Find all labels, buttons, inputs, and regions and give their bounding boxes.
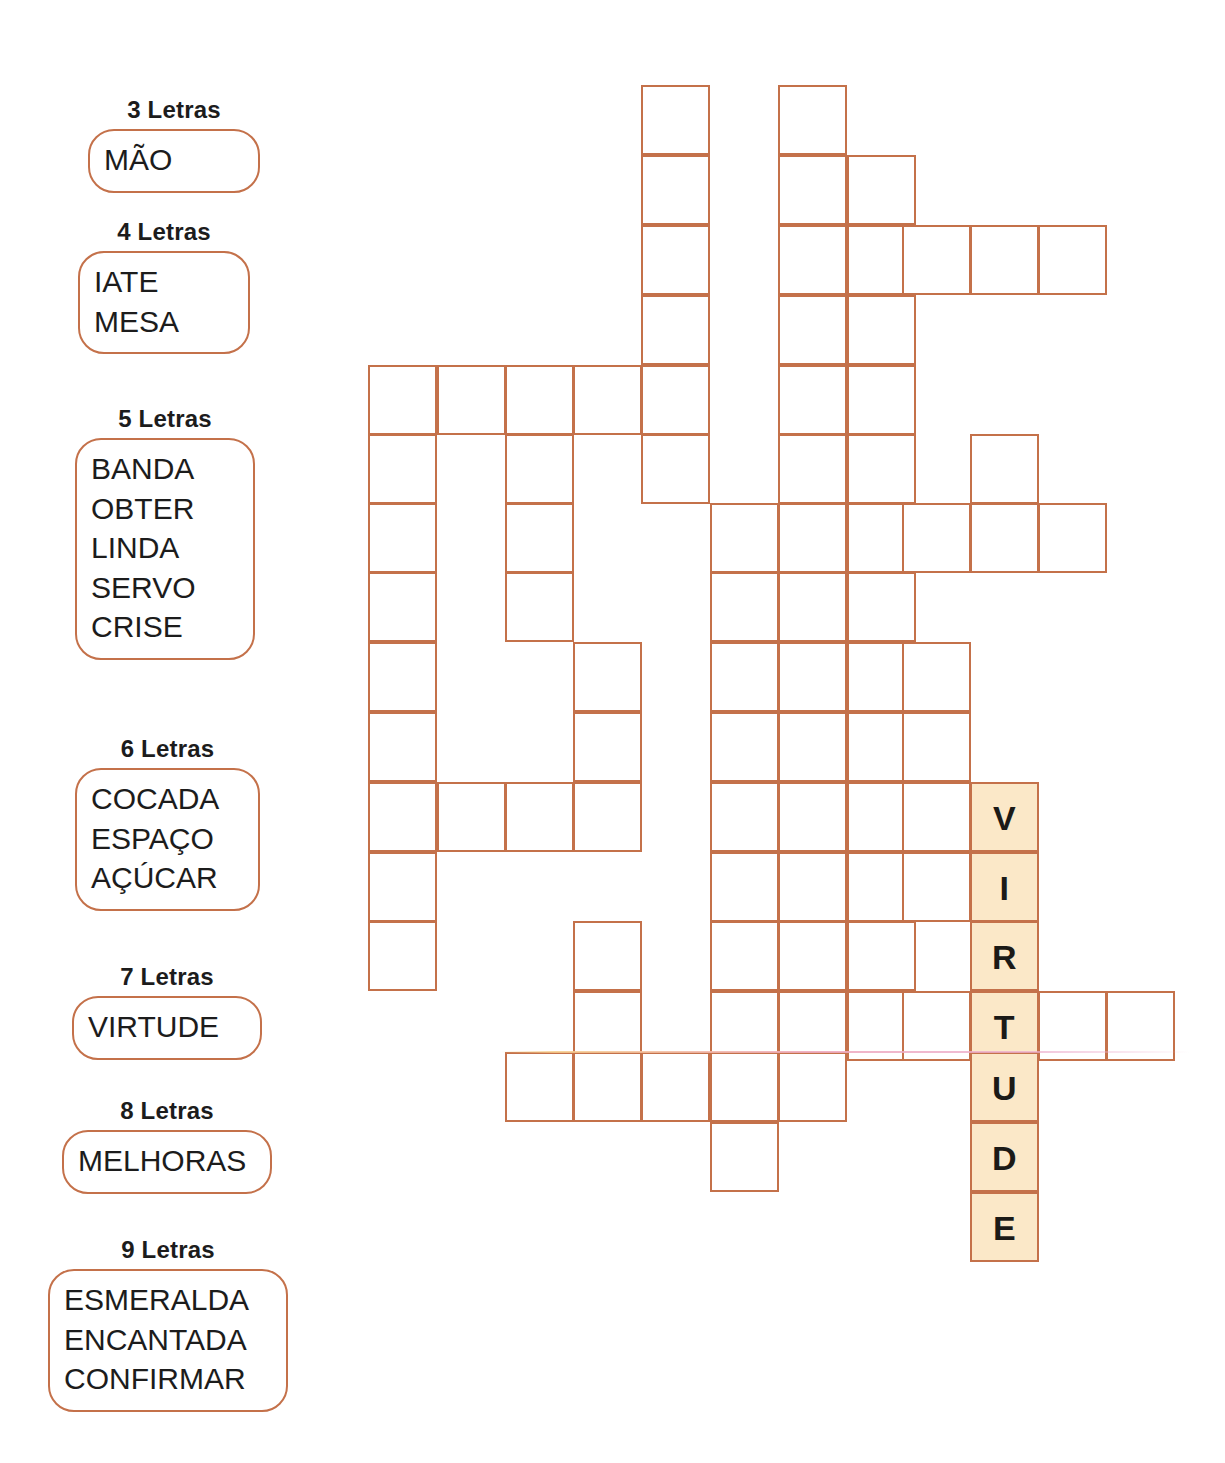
grid-cell[interactable] — [505, 503, 574, 573]
grid-cell[interactable] — [847, 155, 916, 225]
grid-cell[interactable] — [368, 642, 437, 712]
grid-cell[interactable] — [573, 991, 642, 1061]
grid-cell[interactable] — [368, 921, 437, 991]
grid-cell[interactable] — [902, 503, 971, 573]
grid-cell[interactable] — [778, 852, 847, 922]
grid-cell[interactable] — [573, 921, 642, 991]
grid-cell[interactable] — [710, 572, 779, 642]
grid-cell[interactable] — [573, 365, 642, 435]
grid-cell[interactable] — [368, 852, 437, 922]
grid-cell-filled[interactable]: D — [970, 1122, 1039, 1192]
grid-cell[interactable] — [710, 921, 779, 991]
grid-cell[interactable] — [573, 642, 642, 712]
grid-cell[interactable] — [778, 503, 847, 573]
grid-cell[interactable] — [778, 365, 847, 435]
grid-cell[interactable] — [778, 434, 847, 504]
grid-cell[interactable] — [641, 155, 710, 225]
grid-cell[interactable] — [902, 852, 971, 922]
grid-letter: U — [972, 1054, 1037, 1120]
grid-cell[interactable] — [902, 782, 971, 852]
grid-cell[interactable] — [710, 712, 779, 782]
grid-cell[interactable] — [778, 572, 847, 642]
grid-cell[interactable] — [778, 991, 847, 1061]
grid-cell-filled[interactable]: V — [970, 782, 1039, 852]
grid-cell[interactable] — [847, 365, 916, 435]
grid-cell[interactable] — [710, 503, 779, 573]
grid-cell-filled[interactable]: T — [970, 991, 1039, 1061]
grid-cell-filled[interactable]: I — [970, 852, 1039, 922]
grid-cell[interactable] — [505, 365, 574, 435]
grid-cell[interactable] — [847, 921, 916, 991]
grid-cell[interactable] — [778, 1052, 847, 1122]
grid-cell[interactable] — [710, 852, 779, 922]
grid-cell[interactable] — [573, 1052, 642, 1122]
grid-cell[interactable] — [902, 712, 971, 782]
grid-cell[interactable] — [710, 991, 779, 1061]
grid-cell[interactable] — [778, 782, 847, 852]
grid-cell[interactable] — [1038, 991, 1107, 1061]
grid-cell[interactable] — [778, 155, 847, 225]
grid-cell[interactable] — [710, 642, 779, 712]
grid-cell[interactable] — [368, 503, 437, 573]
grid-cell[interactable] — [505, 782, 574, 852]
grid-cell[interactable] — [437, 365, 506, 435]
grid-cell[interactable] — [437, 782, 506, 852]
grid-cell[interactable] — [847, 295, 916, 365]
grid-cell[interactable] — [970, 225, 1039, 295]
grid-cell[interactable] — [641, 85, 710, 155]
grid-letter: E — [972, 1194, 1037, 1260]
grid-cell[interactable] — [970, 434, 1039, 504]
grid-cell[interactable] — [505, 434, 574, 504]
grid-cell[interactable] — [710, 1122, 779, 1192]
grid-cell[interactable] — [778, 85, 847, 155]
grid-cell[interactable] — [1038, 503, 1107, 573]
grid-cell-filled[interactable]: R — [970, 921, 1039, 991]
grid-cell[interactable] — [902, 225, 971, 295]
grid-cell[interactable] — [778, 642, 847, 712]
grid-cell[interactable] — [1106, 991, 1175, 1061]
grid-cell[interactable] — [641, 225, 710, 295]
grid-cell-filled[interactable]: U — [970, 1052, 1039, 1122]
grid-cell[interactable] — [902, 642, 971, 712]
grid-cell[interactable] — [902, 991, 971, 1061]
grid-cell[interactable] — [368, 782, 437, 852]
grid-cell[interactable] — [847, 572, 916, 642]
grid-cell[interactable] — [778, 295, 847, 365]
grid-cell[interactable] — [573, 712, 642, 782]
grid-letter: D — [972, 1124, 1037, 1190]
grid-cell-filled[interactable]: E — [970, 1192, 1039, 1262]
grid-cell[interactable] — [641, 434, 710, 504]
grid-cell[interactable] — [641, 365, 710, 435]
grid-cell[interactable] — [778, 921, 847, 991]
grid-cell[interactable] — [847, 434, 916, 504]
grid-cell[interactable] — [505, 1052, 574, 1122]
grid-cell[interactable] — [710, 782, 779, 852]
grid-cell[interactable] — [641, 295, 710, 365]
grid-letter: V — [972, 784, 1037, 850]
grid-cell[interactable] — [368, 365, 437, 435]
grid-cell[interactable] — [641, 1052, 710, 1122]
grid-cell[interactable] — [505, 572, 574, 642]
grid-cell[interactable] — [1038, 225, 1107, 295]
grid-cell[interactable] — [778, 225, 847, 295]
grid-cell[interactable] — [710, 1052, 779, 1122]
grid-cell[interactable] — [970, 503, 1039, 573]
grid-cell[interactable] — [368, 434, 437, 504]
puzzle-page: 3 LetrasMÃO4 LetrasIATEMESA5 LetrasBANDA… — [0, 0, 1225, 1463]
grid-letter: R — [972, 923, 1037, 989]
crossword-grid[interactable]: VIRTUDE — [0, 0, 1225, 1463]
grid-cell[interactable] — [368, 572, 437, 642]
grid-cell[interactable] — [778, 712, 847, 782]
grid-cell[interactable] — [368, 712, 437, 782]
grid-letter: I — [972, 854, 1037, 920]
grid-cell[interactable] — [573, 782, 642, 852]
grid-letter: T — [972, 993, 1037, 1059]
